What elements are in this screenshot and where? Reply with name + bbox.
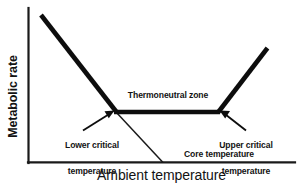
lower-critical-line-2: temperature [46, 167, 138, 176]
lower-critical-temperature-label: Lower critical temperature [46, 123, 138, 193]
upper-critical-line-1: Upper critical [200, 141, 292, 150]
lower-critical-line-1: Lower critical [46, 141, 138, 150]
thermoneutral-zone-figure: Metabolic rate Ambient temperature Therm… [0, 0, 302, 193]
upper-critical-line-2: temperature [200, 167, 292, 176]
core-temperature-label: Core temperature [176, 150, 262, 159]
heat-slope-line [218, 48, 268, 113]
thermoneutral-zone-label: Thermoneutral zone [118, 91, 218, 100]
y-axis-label: Metabolic rate [0, 0, 26, 193]
cold-slope-line [41, 15, 117, 112]
